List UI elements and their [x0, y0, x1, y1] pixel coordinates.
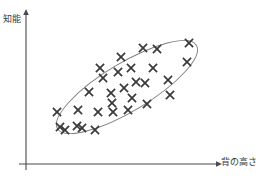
- data-point-marker: [139, 44, 147, 52]
- data-point-marker: [94, 108, 102, 116]
- data-point-marker: [74, 106, 82, 114]
- scatter-plot-figure: 知能 背の高さ: [0, 0, 263, 182]
- correlation-ellipse: [45, 25, 209, 150]
- x-axis: [19, 161, 222, 167]
- data-point-marker: [132, 78, 140, 86]
- data-point-marker: [124, 106, 132, 114]
- data-point-marker: [85, 88, 93, 96]
- data-point-marker: [164, 76, 172, 84]
- y-axis-label: 知能: [3, 14, 17, 24]
- data-point-marker: [127, 64, 135, 72]
- data-point-marker: [143, 100, 151, 108]
- data-point-marker: [185, 39, 193, 47]
- data-point-marker: [120, 84, 128, 92]
- data-point-marker: [53, 108, 61, 116]
- data-point-marker: [99, 74, 107, 82]
- x-axis-label: 背の高さ: [221, 157, 257, 167]
- data-point-marker: [96, 64, 104, 72]
- y-axis: [23, 9, 29, 170]
- data-point-marker: [149, 64, 157, 72]
- data-point-marker: [114, 68, 122, 76]
- data-point-marker: [166, 91, 174, 99]
- plot-canvas: [0, 0, 263, 182]
- data-point-markers: [53, 39, 193, 134]
- data-point-marker: [109, 108, 117, 116]
- data-point-marker: [108, 99, 116, 107]
- data-point-marker: [128, 94, 136, 102]
- data-point-marker: [117, 53, 125, 61]
- data-point-marker: [91, 126, 99, 134]
- data-point-marker: [107, 89, 115, 97]
- data-point-marker: [183, 58, 191, 66]
- data-point-marker: [141, 79, 149, 87]
